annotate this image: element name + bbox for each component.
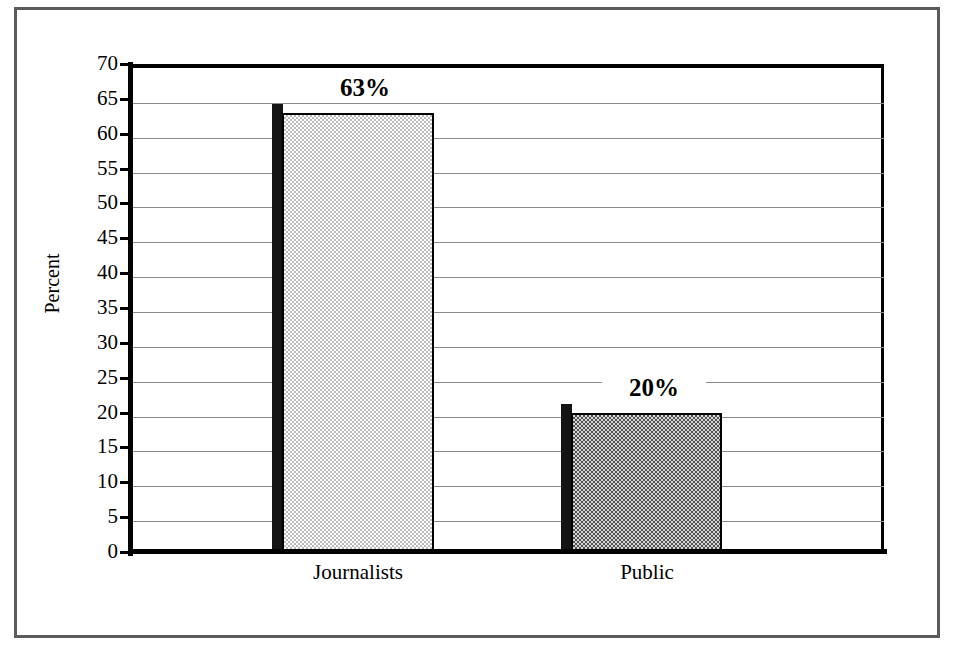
y-axis-tick	[120, 63, 131, 66]
gridline	[131, 382, 884, 383]
y-axis-tick-label: 65	[72, 88, 118, 109]
y-axis-tick	[120, 516, 131, 519]
y-axis-tick-label: 15	[72, 436, 118, 457]
bar-value-label: 63%	[313, 75, 417, 101]
bar-public[interactable]	[561, 404, 722, 552]
gridline	[131, 486, 884, 487]
y-axis-tick-label: 30	[72, 332, 118, 353]
y-axis-tick-label: 35	[72, 297, 118, 318]
y-axis-tick-label: 10	[72, 471, 118, 492]
bar-face	[571, 413, 722, 552]
gridline	[131, 207, 884, 208]
category-label-public: Public	[537, 560, 757, 585]
y-axis-tick-label: 25	[72, 367, 118, 388]
y-axis-tick	[120, 98, 131, 101]
gridline	[131, 173, 884, 174]
y-axis-tick	[120, 133, 131, 136]
y-axis-tick	[120, 202, 131, 205]
y-axis-tick-label: 20	[72, 402, 118, 423]
plot-area	[131, 64, 884, 552]
gridline	[131, 451, 884, 452]
gridline	[131, 312, 884, 313]
gridline	[131, 138, 884, 139]
y-axis-tick-labels: 7065605550454035302520151050	[62, 0, 118, 660]
y-axis-tick-label: 0	[72, 541, 118, 562]
y-axis-tick	[120, 237, 131, 240]
y-axis-tick-label: 40	[72, 262, 118, 283]
y-axis-tick	[120, 272, 131, 275]
chart-figure: 7065605550454035302520151050 Percent 63%…	[0, 0, 954, 660]
y-axis-title: Percent	[41, 224, 64, 344]
y-axis-tick	[120, 481, 131, 484]
category-label-journalists: Journalists	[248, 560, 468, 585]
y-axis-tick	[120, 342, 131, 345]
y-axis-tick-label: 5	[72, 506, 118, 527]
y-axis-tick	[120, 551, 131, 554]
bar-face	[282, 113, 434, 552]
gridline	[131, 242, 884, 243]
bar-journalists[interactable]	[272, 104, 434, 552]
y-axis-tick	[120, 168, 131, 171]
y-axis-tick-label: 70	[72, 53, 118, 74]
y-axis-tick	[120, 307, 131, 310]
gridline	[131, 521, 884, 522]
gridline	[131, 277, 884, 278]
gridline	[131, 347, 884, 348]
y-axis-tick-label: 60	[72, 123, 118, 144]
y-axis-tick	[120, 412, 131, 415]
y-axis-tick-label: 45	[72, 227, 118, 248]
gridline	[131, 417, 884, 418]
y-axis-tick-label: 50	[72, 192, 118, 213]
y-axis-tick	[120, 377, 131, 380]
gridline	[131, 103, 884, 104]
bar-value-label: 20%	[602, 375, 706, 401]
x-axis-line	[128, 549, 887, 554]
y-axis-tick-label: 55	[72, 158, 118, 179]
y-axis-tick	[120, 446, 131, 449]
